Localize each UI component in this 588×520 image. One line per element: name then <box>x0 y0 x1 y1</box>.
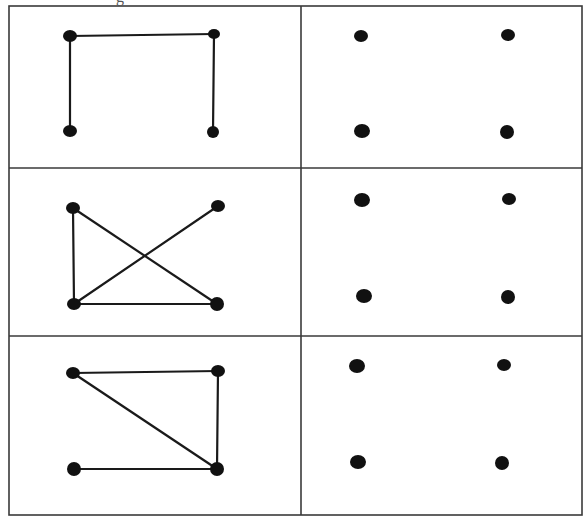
node-TL <box>354 30 368 42</box>
edge-TL-BL <box>73 208 74 304</box>
node-TL <box>63 30 77 42</box>
edge-TR-BR <box>213 34 214 132</box>
node-BR <box>207 126 219 138</box>
node-BL <box>63 125 77 137</box>
node-BR <box>210 297 224 311</box>
node-BL <box>350 455 366 469</box>
node-BL <box>67 298 81 310</box>
table-border <box>9 6 582 515</box>
node-TR <box>211 365 225 377</box>
node-TR <box>501 29 515 41</box>
node-BL <box>354 124 370 138</box>
node-TL <box>66 202 80 214</box>
node-BR <box>210 462 224 476</box>
node-BR <box>501 290 515 304</box>
node-BL <box>356 289 372 303</box>
node-TR <box>211 200 225 212</box>
node-TL <box>66 367 80 379</box>
node-TR <box>497 359 511 371</box>
caption-fragment: g <box>116 0 124 5</box>
node-BR <box>500 125 514 139</box>
node-TL <box>354 193 370 207</box>
node-BL <box>67 462 81 476</box>
node-TR <box>502 193 516 205</box>
table-grid <box>9 6 582 515</box>
graph-table-svg <box>0 0 588 520</box>
edge-TR-BR <box>217 371 218 469</box>
graph-table-figure: g <box>0 0 588 520</box>
node-TR <box>208 29 220 39</box>
node-TL <box>349 359 365 373</box>
node-BR <box>495 456 509 470</box>
